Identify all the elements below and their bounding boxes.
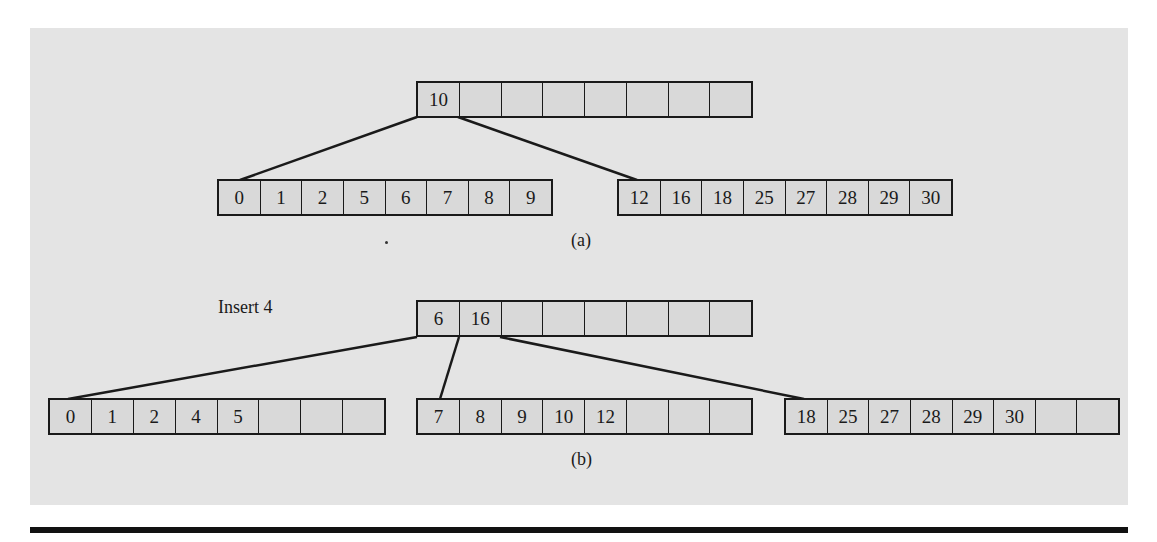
key-cell: 25 bbox=[828, 400, 870, 433]
key-cell bbox=[301, 400, 343, 433]
key-cell: 27 bbox=[869, 400, 911, 433]
key-cell: 12 bbox=[619, 181, 661, 214]
key-cell: 12 bbox=[585, 400, 627, 433]
key-cell bbox=[710, 400, 751, 433]
key-cell: 5 bbox=[344, 181, 386, 214]
leaf-node-b-left: 0 1 2 4 5 bbox=[48, 398, 386, 435]
key-cell bbox=[669, 83, 711, 116]
key-cell bbox=[627, 400, 669, 433]
key-cell bbox=[1036, 400, 1078, 433]
key-cell: 5 bbox=[218, 400, 260, 433]
print-speck bbox=[385, 241, 388, 244]
key-cell: 18 bbox=[702, 181, 744, 214]
key-cell bbox=[460, 83, 502, 116]
key-cell: 30 bbox=[994, 400, 1036, 433]
key-cell: 6 bbox=[418, 302, 460, 335]
key-cell: 28 bbox=[827, 181, 869, 214]
key-cell: 2 bbox=[302, 181, 344, 214]
leaf-node-a-left: 0 1 2 5 6 7 8 9 bbox=[217, 179, 553, 216]
leaf-node-a-right: 12 16 18 25 27 28 29 30 bbox=[617, 179, 953, 216]
key-cell bbox=[627, 302, 669, 335]
key-cell: 16 bbox=[460, 302, 502, 335]
key-cell: 29 bbox=[953, 400, 995, 433]
leaf-node-b-right: 18 25 27 28 29 30 bbox=[784, 398, 1120, 435]
key-cell: 9 bbox=[502, 400, 544, 433]
key-cell: 4 bbox=[176, 400, 218, 433]
key-cell bbox=[710, 302, 751, 335]
key-cell bbox=[343, 400, 384, 433]
key-cell: 0 bbox=[50, 400, 92, 433]
key-cell bbox=[669, 302, 711, 335]
leaf-node-b-middle: 7 8 9 10 12 bbox=[416, 398, 753, 435]
key-cell bbox=[585, 302, 627, 335]
key-cell: 0 bbox=[219, 181, 261, 214]
key-cell: 25 bbox=[744, 181, 786, 214]
key-cell: 8 bbox=[469, 181, 511, 214]
key-cell: 8 bbox=[460, 400, 502, 433]
figure-bottom-rule bbox=[30, 527, 1128, 533]
key-cell: 27 bbox=[786, 181, 828, 214]
key-cell bbox=[502, 302, 544, 335]
root-node-a: 10 bbox=[416, 81, 753, 118]
key-cell: 1 bbox=[92, 400, 134, 433]
caption-a: (a) bbox=[571, 230, 591, 251]
key-cell bbox=[710, 83, 751, 116]
caption-b: (b) bbox=[571, 449, 592, 470]
key-cell bbox=[669, 400, 711, 433]
key-cell: 10 bbox=[543, 400, 585, 433]
key-cell bbox=[1077, 400, 1118, 433]
key-cell: 30 bbox=[910, 181, 951, 214]
key-cell: 29 bbox=[869, 181, 911, 214]
key-cell bbox=[585, 83, 627, 116]
key-cell: 1 bbox=[261, 181, 303, 214]
insert-annotation: Insert 4 bbox=[218, 297, 272, 318]
key-cell bbox=[502, 83, 544, 116]
key-cell bbox=[543, 302, 585, 335]
key-cell: 16 bbox=[661, 181, 703, 214]
key-cell bbox=[627, 83, 669, 116]
key-cell: 7 bbox=[427, 181, 469, 214]
key-cell: 9 bbox=[510, 181, 551, 214]
key-cell: 7 bbox=[418, 400, 460, 433]
root-node-b: 6 16 bbox=[416, 300, 753, 337]
key-cell: 2 bbox=[134, 400, 176, 433]
key-cell bbox=[543, 83, 585, 116]
key-cell: 28 bbox=[911, 400, 953, 433]
key-cell: 18 bbox=[786, 400, 828, 433]
key-cell bbox=[259, 400, 301, 433]
key-cell: 10 bbox=[418, 83, 460, 116]
key-cell: 6 bbox=[386, 181, 428, 214]
